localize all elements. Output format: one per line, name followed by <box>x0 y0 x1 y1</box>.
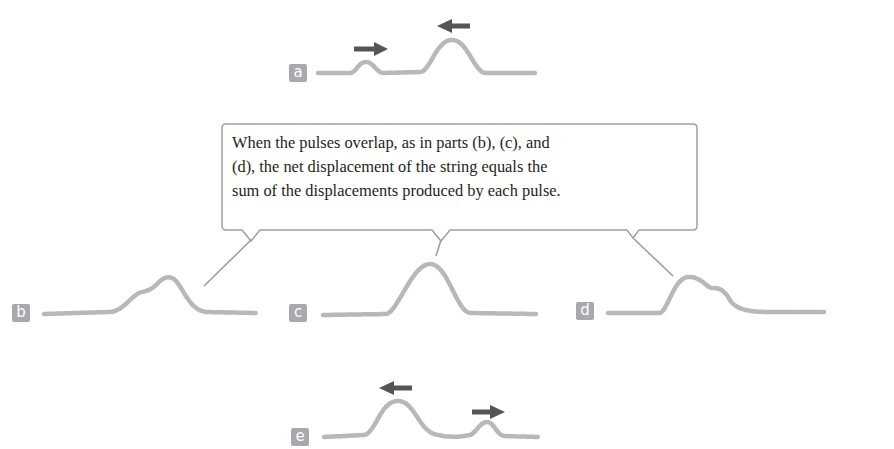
panel-label-e: e <box>291 428 309 446</box>
string-e <box>324 401 538 437</box>
panel-label-c: c <box>289 304 307 322</box>
leader-line-c <box>436 240 441 256</box>
leader-line-b <box>204 240 251 286</box>
superposition-diagram <box>0 0 894 449</box>
callout-line: sum of the displacements produced by eac… <box>232 179 692 203</box>
string-d <box>608 277 824 313</box>
panel-label-b: b <box>12 304 30 322</box>
panel-label-d: d <box>576 302 594 320</box>
callout-line: (d), the net displacement of the string … <box>232 155 692 179</box>
callout-line: When the pulses overlap, as in parts (b)… <box>232 131 692 155</box>
panel-label-a: a <box>289 64 307 82</box>
string-c <box>323 264 536 315</box>
string-b <box>44 277 256 314</box>
string-a <box>318 40 536 73</box>
leader-line-d <box>633 238 673 276</box>
callout-text: When the pulses overlap, as in parts (b)… <box>232 131 692 203</box>
